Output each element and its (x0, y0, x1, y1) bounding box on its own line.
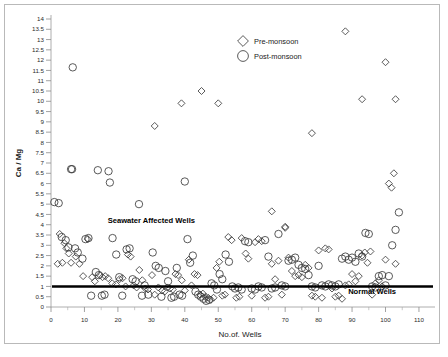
data-point-post-monsoon (135, 200, 142, 207)
series-pre-monsoon-points (54, 28, 399, 303)
data-point-post-monsoon (186, 259, 193, 266)
data-point-post-monsoon (55, 199, 62, 206)
data-point-post-monsoon (392, 226, 399, 233)
data-point-pre-monsoon (178, 100, 185, 107)
data-point-post-monsoon (87, 292, 94, 299)
data-point-pre-monsoon (268, 260, 275, 267)
y-tick-label: 2.5 (35, 252, 44, 259)
y-tick-label: 4 (41, 221, 45, 228)
legend-label: Pre-monsoon (254, 37, 298, 46)
x-tick-label: 0 (49, 316, 53, 323)
data-point-pre-monsoon (332, 293, 339, 300)
y-tick-label: 9 (41, 118, 45, 125)
chart-legend: Pre-monsoonPost-monsoon (238, 36, 302, 62)
axes-group (46, 15, 435, 312)
x-tick-label: 30 (148, 316, 155, 323)
data-point-pre-monsoon (364, 259, 371, 266)
data-point-pre-monsoon (262, 294, 269, 301)
y-tick-label: 11 (38, 77, 45, 84)
x-tick-label: 70 (282, 316, 289, 323)
data-point-pre-monsoon (215, 100, 222, 107)
data-point-post-monsoon (116, 273, 123, 280)
data-point-pre-monsoon (149, 272, 156, 279)
x-tick-label: 10 (81, 316, 88, 323)
data-point-pre-monsoon (312, 293, 319, 300)
x-tick-label: 110 (414, 316, 424, 323)
data-point-post-monsoon (164, 278, 171, 285)
y-tick-labels: 00.511.522.533.544.555.566.577.588.599.5… (32, 15, 45, 310)
data-point-pre-monsoon (325, 246, 332, 253)
data-point-pre-monsoon (268, 208, 275, 215)
data-point-post-monsoon (305, 271, 312, 278)
data-point-pre-monsoon (342, 28, 349, 35)
data-point-post-monsoon (265, 253, 272, 260)
y-tick-label: 6.5 (35, 169, 44, 176)
data-point-pre-monsoon (392, 96, 399, 103)
y-tick-label: 1 (41, 283, 45, 290)
y-tick-label: 3 (41, 241, 45, 248)
legend-label: Post-monsoon (254, 52, 302, 61)
data-point-post-monsoon (178, 292, 185, 299)
data-point-post-monsoon (101, 291, 108, 298)
data-point-post-monsoon (69, 64, 76, 71)
y-tick-label: 3.5 (35, 231, 44, 238)
y-tick-label: 11.5 (32, 67, 44, 74)
data-point-pre-monsoon (265, 293, 272, 300)
data-point-pre-monsoon (388, 184, 395, 191)
y-tick-label: 2 (41, 262, 45, 269)
data-point-pre-monsoon (72, 253, 79, 260)
data-point-post-monsoon (158, 293, 165, 300)
data-point-post-monsoon (184, 235, 191, 242)
data-point-pre-monsoon (382, 256, 389, 263)
data-point-post-monsoon (105, 168, 112, 175)
y-tick-label: 7 (41, 159, 45, 166)
annotation-seawater-affected-wells: Seawater Affected Wells (108, 216, 195, 225)
y-tick-label: 6 (41, 180, 45, 187)
x-tick-labels: 0102030405060708090100110 (49, 316, 424, 323)
data-point-post-monsoon (315, 262, 322, 269)
data-point-post-monsoon (173, 264, 180, 271)
data-point-post-monsoon (275, 230, 282, 237)
data-point-pre-monsoon (390, 170, 397, 177)
y-tick-label: 13 (37, 36, 44, 43)
chart-frame: 00.511.522.533.544.555.566.577.588.599.5… (4, 4, 440, 344)
data-point-post-monsoon (162, 267, 169, 274)
y-tick-label: 1.5 (35, 272, 44, 279)
data-point-post-monsoon (222, 251, 229, 258)
x-tick-label: 20 (114, 316, 121, 323)
data-point-pre-monsoon (308, 292, 315, 299)
x-tick-label: 60 (248, 316, 255, 323)
data-point-pre-monsoon (315, 247, 322, 254)
data-point-pre-monsoon (136, 266, 143, 273)
data-point-pre-monsoon (392, 260, 399, 267)
y-axis-title: Ca / Mg (14, 149, 23, 178)
y-tick-label: 5 (41, 200, 45, 207)
data-point-post-monsoon (94, 167, 101, 174)
data-point-post-monsoon (109, 234, 116, 241)
x-axis-title: No.of. Wells (219, 330, 262, 339)
data-point-post-monsoon (119, 292, 126, 299)
y-tick-label: 9.5 (35, 108, 44, 115)
data-point-pre-monsoon (349, 271, 356, 278)
data-point-pre-monsoon (382, 59, 389, 66)
data-point-pre-monsoon (68, 259, 75, 266)
data-point-pre-monsoon (80, 273, 87, 280)
data-point-pre-monsoon (275, 257, 282, 264)
data-point-pre-monsoon (318, 294, 325, 301)
annotation-normal-wells: Normal Wells (348, 287, 396, 296)
legend-marker-post-monsoon (238, 51, 249, 62)
y-tick-label: 12 (37, 56, 44, 63)
data-point-post-monsoon (389, 242, 396, 249)
data-point-pre-monsoon (367, 248, 374, 255)
data-point-post-monsoon (189, 252, 196, 259)
data-point-pre-monsoon (359, 96, 366, 103)
y-tick-label: 4.5 (35, 211, 44, 218)
scatter-plot-canvas: 00.511.522.533.544.555.566.577.588.599.5… (5, 5, 441, 345)
data-point-pre-monsoon (198, 88, 205, 95)
data-point-post-monsoon (113, 251, 120, 258)
data-point-pre-monsoon (385, 180, 392, 187)
data-point-post-monsoon (385, 272, 392, 279)
data-point-post-monsoon (106, 179, 113, 186)
y-tick-label: 7.5 (35, 149, 44, 156)
chart-figure: 00.511.522.533.544.555.566.577.588.599.5… (0, 0, 448, 357)
